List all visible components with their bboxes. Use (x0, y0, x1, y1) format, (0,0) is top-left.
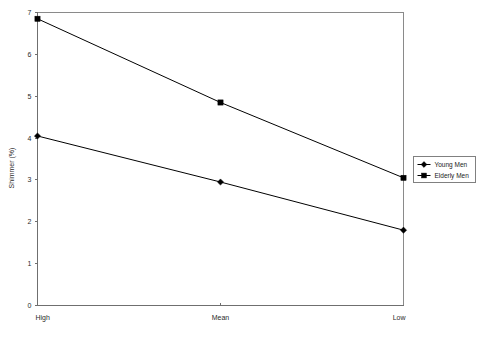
legend-item-label: Elderly Men (435, 172, 470, 180)
data-point-marker (35, 16, 40, 21)
series-elderly-men (35, 16, 406, 180)
x-category-label: Low (393, 314, 407, 321)
y-tick-label: 6 (28, 51, 32, 58)
data-point-marker (401, 175, 406, 180)
plot-frame-border (38, 13, 404, 306)
y-axis-title: Shimmer (%) (8, 148, 16, 189)
series-young-men (34, 133, 406, 233)
data-point-marker (218, 100, 223, 105)
x-category-label: High (36, 314, 51, 322)
data-point-marker (400, 227, 406, 233)
y-tick-label: 7 (28, 9, 32, 16)
legend-item-label: Young Men (435, 161, 468, 169)
y-tick-label: 4 (28, 135, 32, 142)
legend: Young MenElderly Men (414, 157, 476, 183)
legend-marker-icon (422, 173, 427, 178)
y-tick-label: 0 (28, 302, 32, 309)
x-axis: HighMeanLow (36, 303, 407, 322)
y-tick-label: 2 (28, 218, 32, 225)
data-series-group (34, 16, 406, 233)
y-axis: 01234567 (28, 9, 38, 309)
line-chart: 01234567 HighMeanLow Shimmer (%) Young M… (0, 0, 487, 342)
y-tick-group: 01234567 (28, 9, 38, 309)
chart-container: 01234567 HighMeanLow Shimmer (%) Young M… (0, 0, 487, 342)
series-line (38, 19, 404, 178)
y-tick-label: 5 (28, 93, 32, 100)
x-category-label: Mean (212, 314, 230, 321)
y-tick-label: 3 (28, 176, 32, 183)
plot-frame (38, 13, 404, 306)
data-point-marker (217, 179, 223, 185)
y-tick-label: 1 (28, 260, 32, 267)
